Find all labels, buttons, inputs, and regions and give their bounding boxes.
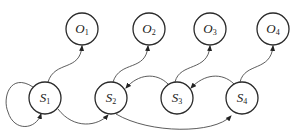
label-s2: S2 — [95, 88, 127, 108]
label-s1: S1 — [29, 88, 61, 108]
edge-s1-s2 — [58, 109, 108, 124]
edge-s1-o1 — [48, 46, 82, 82]
label-s3: S3 — [161, 88, 193, 108]
edge-s4-o4 — [240, 46, 273, 82]
edge-s2-s4 — [116, 114, 231, 129]
label-o4: O4 — [257, 19, 289, 39]
label-o3: O3 — [194, 19, 226, 39]
label-s4: S4 — [226, 88, 258, 108]
label-o1: O1 — [66, 19, 98, 39]
edge-s3-s2 — [126, 76, 168, 88]
label-o2: O2 — [133, 19, 165, 39]
diagram-canvas: O1 O2 O3 O4 S1 S2 S3 S4 — [0, 0, 305, 137]
edge-s3-o3 — [175, 46, 210, 82]
edge-s4-s3 — [191, 76, 234, 88]
